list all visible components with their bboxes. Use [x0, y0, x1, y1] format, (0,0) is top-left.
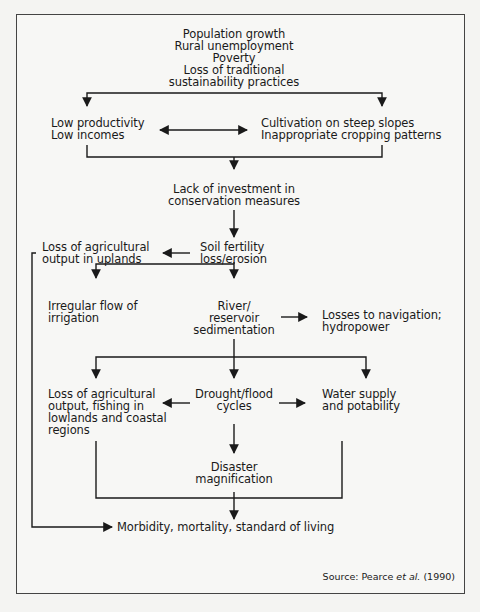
node-cultivation: Cultivation on steep slopes Inappropriat…: [261, 117, 441, 141]
edge-soil-split: [96, 264, 234, 278]
node-morbidity: Morbidity, mortality, standard of living: [117, 521, 334, 533]
node-loss-lowlands: Loss of agricultural output, fishing in …: [48, 388, 167, 436]
edge-root-split: [87, 93, 382, 106]
node-root: Population growth Rural unemployment Pov…: [169, 28, 299, 88]
edge-river-split: [96, 357, 366, 378]
node-disaster: Disaster magnification: [195, 461, 272, 485]
node-low-productivity: Low productivity Low incomes: [51, 117, 144, 141]
node-lack-investment: Lack of investment in conservation measu…: [168, 183, 300, 207]
node-soil-fertility: Soil fertility loss/erosion: [200, 241, 267, 265]
node-river-sedimentation: River/ reservoir sedimentation: [193, 300, 274, 336]
node-loss-uplands: Loss of agricultural output in uplands: [42, 241, 149, 265]
source-citation: Source: Pearce et al. (1990): [323, 571, 455, 582]
node-drought-flood: Drought/flood cycles: [195, 388, 273, 412]
node-losses-navigation: Losses to navigation; hydropower: [322, 309, 442, 333]
node-water-supply: Water supply and potability: [322, 388, 400, 412]
edge-merge-investment: [87, 145, 382, 157]
node-irregular-flow: Irregular flow of irrigation: [48, 300, 137, 324]
